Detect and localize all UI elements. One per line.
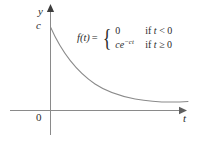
- formula-left-hand-side: f(t): [77, 33, 90, 44]
- case-value-exponent: −ct: [124, 38, 134, 46]
- t-axis-label: t: [183, 113, 186, 124]
- plot-canvas: [0, 0, 197, 145]
- y-axis: [47, 4, 54, 135]
- case-row: ce−ct if t ≥ 0: [115, 39, 172, 50]
- case-condition-variable: t: [154, 25, 157, 36]
- origin-label: 0: [36, 112, 42, 123]
- formula-cases: 0 if t < 0 ce−ct if t ≥ 0: [115, 26, 172, 50]
- case-condition-relation: < 0: [159, 25, 172, 36]
- case-condition-prefix: if: [145, 39, 151, 50]
- case-row: 0 if t < 0: [115, 26, 172, 36]
- case-condition-prefix: if: [145, 25, 151, 36]
- case-value: 0: [115, 26, 145, 36]
- case-condition: if t < 0: [145, 26, 172, 36]
- case-condition-variable: t: [154, 39, 157, 50]
- c-value-label: c: [36, 20, 41, 31]
- case-value: ce−ct: [115, 39, 145, 50]
- exponential-decay-figure: y t c 0 f(t) = { 0 if t < 0 ce−ct if t ≥…: [0, 0, 197, 145]
- case-condition-relation: ≥ 0: [159, 39, 172, 50]
- case-condition: if t ≥ 0: [145, 40, 172, 50]
- formula-brace: {: [103, 28, 112, 48]
- y-axis-label: y: [38, 6, 43, 17]
- y-axis-arrowhead: [47, 4, 54, 12]
- case-value-base: ce: [115, 39, 124, 50]
- formula-equals-sign: =: [92, 33, 98, 44]
- piecewise-function-formula: f(t) = { 0 if t < 0 ce−ct if t ≥ 0: [77, 26, 172, 50]
